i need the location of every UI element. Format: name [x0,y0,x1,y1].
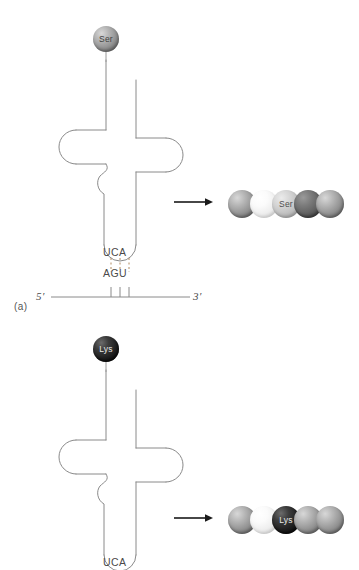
reaction-arrow-a [174,198,213,206]
polypeptide-b-residue-5 [316,506,344,534]
t-loop-a [166,138,183,172]
amino-acid-sphere-lys: Lys [93,336,119,362]
codon-ticks-a [111,287,129,297]
variable-loop-a [98,164,108,245]
reaction-arrow-b [174,514,213,522]
t-loop-b [166,448,183,482]
anticodon-label-b: UCA [103,556,126,568]
amino-acid-label-ser: Ser [93,35,119,44]
codon-label-a: AGU [103,267,127,279]
trna-cloverleaf-b [0,330,359,570]
three-prime-label-a: 3′ [193,290,202,302]
trna-cloverleaf-a [0,0,359,330]
panel-label-a: (a) [14,301,27,312]
five-prime-label-a: 5′ [36,290,45,302]
d-loop-a [59,130,76,164]
anticodon-label-a: UCA [103,246,126,258]
d-loop-b [59,440,76,474]
variable-loop-b [98,474,108,555]
panel-b: Lys UCA Lys [0,330,359,570]
panel-a: Ser UCA AGU 5′ 3′ (a) Ser [0,0,359,330]
amino-acid-label-lys: Lys [93,345,119,354]
amino-acid-sphere-ser: Ser [93,26,119,52]
polypeptide-residue-5 [316,190,344,218]
